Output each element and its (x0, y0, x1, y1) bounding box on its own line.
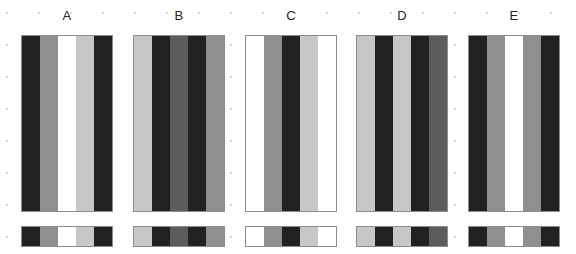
colorbar-band (393, 227, 411, 246)
colorbar-band (246, 227, 264, 246)
colorbar-band (357, 227, 375, 246)
colorbar-band (152, 227, 170, 246)
colorbar-band (134, 227, 152, 246)
band (375, 36, 393, 211)
band (76, 36, 94, 211)
band (523, 36, 541, 211)
panel-swatch-e (468, 35, 560, 212)
band (170, 36, 188, 211)
colorbar-band (40, 227, 58, 246)
band (469, 36, 487, 211)
colorbar-band (523, 227, 541, 246)
band (487, 36, 505, 211)
band (541, 36, 559, 211)
band (94, 36, 112, 211)
colorbar-strip-e (468, 226, 560, 247)
panel-label-c: C (245, 8, 337, 23)
colorbar-band (505, 227, 523, 246)
panel-container: ABCDE (0, 0, 576, 254)
band (40, 36, 58, 211)
band (411, 36, 429, 211)
colorbar-band (487, 227, 505, 246)
colorbar-band (170, 227, 188, 246)
colorbar-band (94, 227, 112, 246)
band (393, 36, 411, 211)
panel-group-a: A (21, 0, 113, 254)
colorbar-band (429, 227, 447, 246)
colorbar-band (469, 227, 487, 246)
band (318, 36, 336, 211)
panel-swatch-d (356, 35, 448, 212)
colorbar-band (541, 227, 559, 246)
band (429, 36, 447, 211)
band (22, 36, 40, 211)
panel-label-b: B (133, 8, 225, 23)
colorbar-band (58, 227, 76, 246)
colorbar-band (318, 227, 336, 246)
colorbar-strip-c (245, 226, 337, 247)
colorbar-band (282, 227, 300, 246)
panel-label-d: D (356, 8, 448, 23)
panel-label-e: E (468, 8, 560, 23)
colorbar-strip-d (356, 226, 448, 247)
panel-swatch-c (245, 35, 337, 212)
band (282, 36, 300, 211)
band (264, 36, 282, 211)
panel-swatch-a (21, 35, 113, 212)
band (300, 36, 318, 211)
band (246, 36, 264, 211)
colorbar-band (300, 227, 318, 246)
colorbar-band (375, 227, 393, 246)
colorbar-band (206, 227, 224, 246)
panel-group-b: B (133, 0, 225, 254)
colorbar-band (411, 227, 429, 246)
panel-group-c: C (245, 0, 337, 254)
colorbar-band (76, 227, 94, 246)
band (206, 36, 224, 211)
panel-group-d: D (356, 0, 448, 254)
panel-swatch-b (133, 35, 225, 212)
panel-label-a: A (21, 8, 113, 23)
colorbar-band (188, 227, 206, 246)
panel-group-e: E (468, 0, 560, 254)
colorbar-band (264, 227, 282, 246)
colorbar-strip-b (133, 226, 225, 247)
colorbar-strip-a (21, 226, 113, 247)
band (58, 36, 76, 211)
band (152, 36, 170, 211)
band (134, 36, 152, 211)
colorbar-band (22, 227, 40, 246)
band (188, 36, 206, 211)
band (357, 36, 375, 211)
band (505, 36, 523, 211)
